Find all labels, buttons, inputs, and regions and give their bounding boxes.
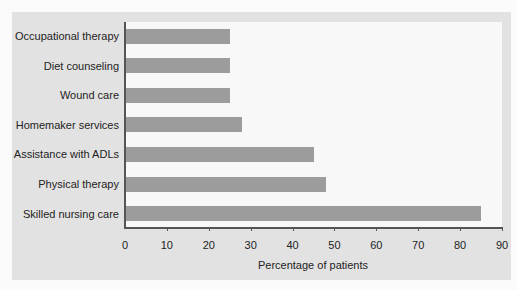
- x-tick-mark: [334, 227, 335, 231]
- x-tick-mark: [502, 227, 503, 231]
- category-label: Diet counseling: [44, 60, 119, 72]
- x-tick-label: 70: [412, 239, 424, 251]
- bar: [125, 58, 230, 73]
- x-tick-mark: [167, 227, 168, 231]
- x-tick-label: 60: [370, 239, 382, 251]
- category-label: Assistance with ADLs: [14, 148, 119, 160]
- bar: [125, 117, 242, 132]
- x-tick-label: 90: [496, 239, 508, 251]
- bar: [125, 29, 230, 44]
- category-label: Skilled nursing care: [23, 208, 119, 220]
- x-tick-label: 30: [245, 239, 257, 251]
- x-axis-label: Percentage of patients: [258, 259, 368, 271]
- x-axis-line: [124, 227, 502, 229]
- x-tick-mark: [293, 227, 294, 231]
- x-tick-mark: [209, 227, 210, 231]
- x-tick-label: 10: [161, 239, 173, 251]
- x-tick-label: 40: [286, 239, 298, 251]
- x-tick-label: 50: [328, 239, 340, 251]
- y-axis-line: [124, 22, 126, 228]
- x-tick-label: 20: [203, 239, 215, 251]
- x-tick-mark: [251, 227, 252, 231]
- x-tick-mark: [418, 227, 419, 231]
- category-label: Wound care: [60, 89, 119, 101]
- x-tick-label: 80: [454, 239, 466, 251]
- x-tick-mark: [460, 227, 461, 231]
- category-label: Physical therapy: [38, 178, 119, 190]
- bar: [125, 177, 326, 192]
- bar: [125, 147, 314, 162]
- category-label: Occupational therapy: [15, 30, 119, 42]
- bar: [125, 88, 230, 103]
- x-tick-label: 0: [122, 239, 128, 251]
- bar: [125, 206, 481, 221]
- x-tick-mark: [376, 227, 377, 231]
- category-label: Homemaker services: [16, 119, 119, 131]
